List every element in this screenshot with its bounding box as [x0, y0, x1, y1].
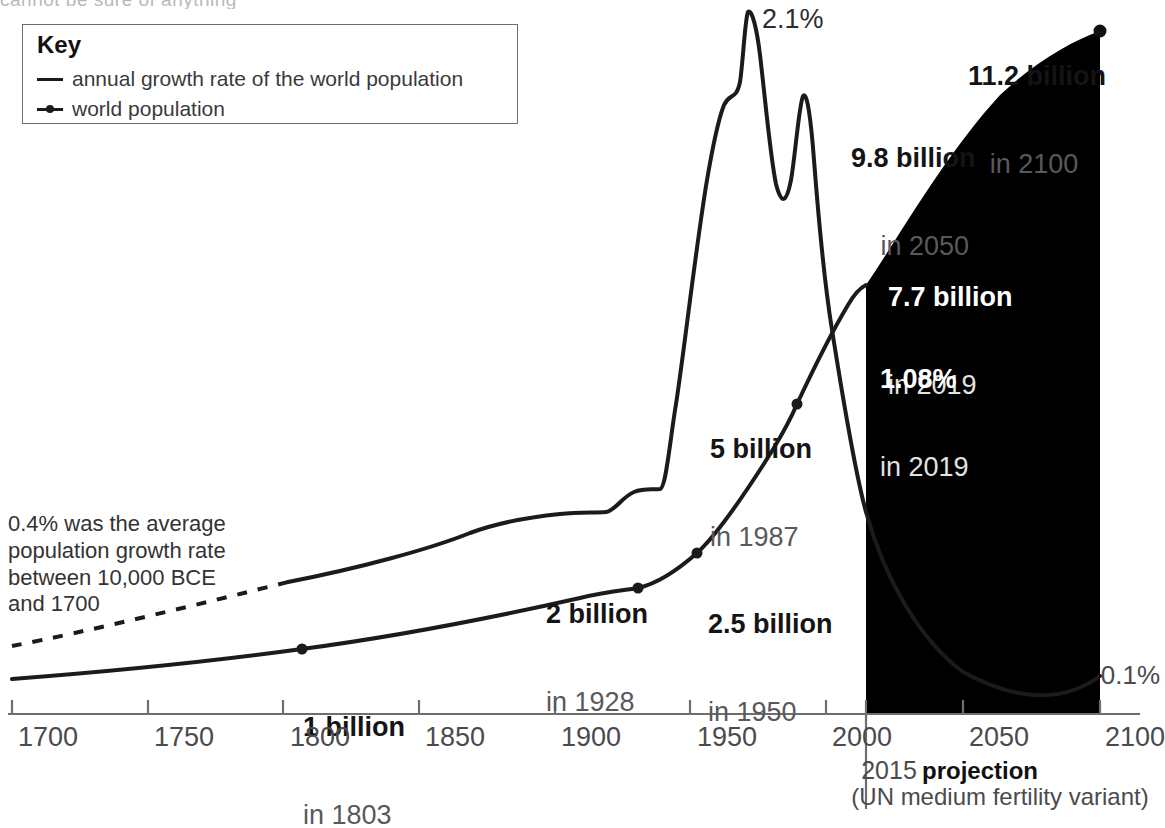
callout-11-2-billion: 11.2 billion in 2100	[968, 4, 1100, 237]
projection-start-year-label: 2015	[861, 756, 917, 785]
legend-key-box: Key annual growth rate of the world popu…	[22, 24, 518, 124]
x-tick-label-2100: 2100	[1105, 722, 1165, 753]
projection-subcaption: (UN medium fertility variant)	[851, 783, 1148, 811]
peak-rate-label: 2.1%	[762, 4, 824, 35]
end-rate-label: 0.1%	[1101, 660, 1160, 691]
legend-label-growth-rate: annual growth rate of the world populati…	[72, 67, 463, 91]
x-tick-label-1850: 1850	[425, 722, 485, 753]
x-tick-label-1750: 1750	[154, 722, 214, 753]
callout-1-08-percent: 1.08% in 2019	[880, 307, 969, 540]
line-swatch-icon	[37, 78, 63, 81]
x-tick-label-2050: 2050	[969, 722, 1029, 753]
x-tick-label-1900: 1900	[561, 722, 621, 753]
legend-label-world-population: world population	[72, 97, 225, 121]
callout-5-billion: 5 billion in 1987	[710, 377, 792, 610]
x-tick-label-1800: 1800	[290, 722, 350, 753]
legend-title: Key	[37, 31, 81, 59]
callout-9-8-billion: 9.8 billion in 2050	[851, 86, 969, 319]
legend-item-growth-rate: annual growth rate of the world populati…	[37, 67, 463, 91]
x-tick-label-1700: 1700	[18, 722, 78, 753]
line-dot-swatch-icon	[37, 105, 63, 114]
projection-caption: projection	[922, 757, 1038, 785]
x-tick-label-2000: 2000	[832, 722, 892, 753]
x-tick-label-1950: 1950	[697, 722, 757, 753]
average-growth-note: 0.4% was the average population growth r…	[8, 511, 226, 618]
legend-item-world-population: world population	[37, 97, 225, 121]
